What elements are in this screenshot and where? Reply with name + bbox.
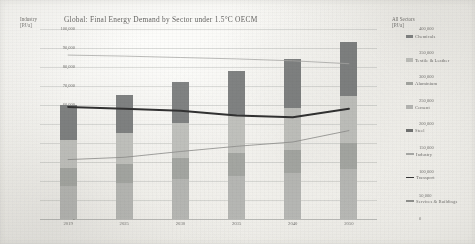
right-axis-tick-label: 300,000 xyxy=(419,74,451,79)
legend-swatch-icon xyxy=(406,105,413,108)
legend-item[interactable]: Industry xyxy=(406,152,432,157)
legend-label: Industry xyxy=(416,152,432,157)
legend-label: Steel xyxy=(415,128,425,133)
line-series xyxy=(68,55,349,64)
chart-photograph: Global: Final Energy Demand by Sector un… xyxy=(0,0,475,244)
legend-item[interactable]: Transport xyxy=(406,175,435,180)
x-axis-tick-label: 2035 xyxy=(209,221,265,226)
legend-swatch-icon xyxy=(406,200,414,201)
legend-label: Chemicals xyxy=(415,34,435,39)
legend-label: Services & Buildings xyxy=(416,199,457,204)
x-axis-tick-label: 2025 xyxy=(96,221,152,226)
left-axis-caption: Industry [PJ/a] xyxy=(20,16,37,29)
legend-label: Aluminium xyxy=(415,81,437,86)
legend-swatch-icon xyxy=(406,177,414,179)
legend-item[interactable]: Steel xyxy=(406,128,425,133)
legend-label: Transport xyxy=(416,175,435,180)
right-axis-tick-label: 100,000 xyxy=(419,169,451,174)
legend-label: Textile & Leather xyxy=(415,58,449,63)
line-series-overlay xyxy=(40,29,377,219)
right-axis-caption-unit: [PJ/a] xyxy=(392,22,415,28)
legend-label: Cement xyxy=(415,105,430,110)
line-series xyxy=(68,107,349,117)
legend-item[interactable]: Chemicals xyxy=(406,34,435,39)
x-axis-tick-label: 2040 xyxy=(265,221,321,226)
plot-area: 010,00020,00030,00040,00050,00060,00070,… xyxy=(40,29,377,219)
x-axis-tick-label: 2030 xyxy=(152,221,208,226)
chart-title: Global: Final Energy Demand by Sector un… xyxy=(64,15,364,24)
line-series xyxy=(68,131,349,160)
right-axis-caption: All Sectors [PJ/a] xyxy=(392,16,415,29)
legend-item[interactable]: Cement xyxy=(406,105,430,110)
right-axis-tick-label: 400,000 xyxy=(419,26,451,31)
right-axis-tick-label: 200,000 xyxy=(419,121,451,126)
legend-swatch-icon xyxy=(406,35,413,38)
left-axis-caption-unit: [PJ/a] xyxy=(20,22,37,28)
right-axis-tick-label: 0 xyxy=(419,216,451,221)
chart-plate: Global: Final Energy Demand by Sector un… xyxy=(0,0,475,244)
legend-swatch-icon xyxy=(406,58,413,61)
legend-swatch-icon xyxy=(406,82,413,85)
right-axis-tick-label: 50,000 xyxy=(419,193,451,198)
legend-swatch-icon xyxy=(406,153,414,154)
right-axis-tick-label: 350,000 xyxy=(419,50,451,55)
gridline xyxy=(40,219,377,220)
right-axis-tick-label: 150,000 xyxy=(419,145,451,150)
legend-item[interactable]: Services & Buildings xyxy=(406,199,457,204)
x-axis-tick-label: 2050 xyxy=(321,221,377,226)
x-axis-tick-label: 2019 xyxy=(40,221,96,226)
legend-item[interactable]: Aluminium xyxy=(406,81,437,86)
legend-item[interactable]: Textile & Leather xyxy=(406,58,449,63)
right-axis-tick-label: 250,000 xyxy=(419,98,451,103)
legend-swatch-icon xyxy=(406,129,413,132)
